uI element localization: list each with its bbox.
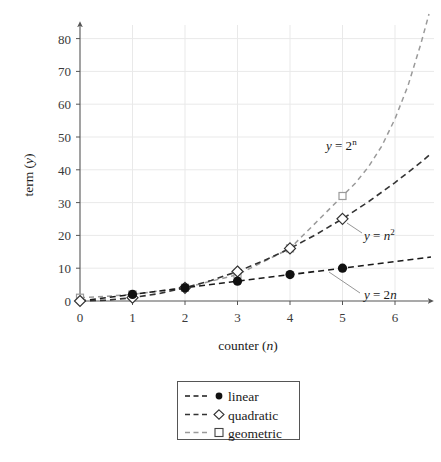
x-tick-label-0: 0 xyxy=(77,310,84,325)
legend-label-quadratic: quadratic xyxy=(228,408,278,423)
y-axis-title-main: term xyxy=(21,171,36,196)
marker-quadratic-n5 xyxy=(337,213,348,224)
annotation-geometric: y = 2n xyxy=(324,137,357,153)
x-axis-title: counter (n) xyxy=(218,338,278,353)
x-tick-labels: 0 1 2 3 4 5 6 xyxy=(77,310,399,325)
legend-label-linear: linear xyxy=(228,389,259,404)
y-tick-label-50: 50 xyxy=(58,130,71,145)
y-tick-label-10: 10 xyxy=(58,261,71,276)
legend-marker-filled-circle-icon xyxy=(216,393,223,400)
y-tick-label-70: 70 xyxy=(58,64,71,79)
y-tick-label-80: 80 xyxy=(58,32,71,47)
y-tick-label-0: 0 xyxy=(65,294,72,309)
y-tick-label-60: 60 xyxy=(58,97,71,112)
y-tick-labels: 0 10 20 30 40 50 60 70 80 xyxy=(58,32,71,309)
x-tick-label-3: 3 xyxy=(234,310,241,325)
annotation-quadratic: y = n2 xyxy=(362,227,395,243)
y-axis-title-var: y xyxy=(21,158,36,166)
marker-linear-n2 xyxy=(180,283,189,292)
y-tick-label-30: 30 xyxy=(58,196,71,211)
annotation-leaders xyxy=(329,223,362,293)
y-tick-marks xyxy=(76,39,80,301)
x-tick-label-5: 5 xyxy=(339,310,346,325)
marker-linear-n4 xyxy=(285,270,294,279)
y-axis-title: term (y) xyxy=(21,153,36,196)
y-tick-label-40: 40 xyxy=(58,163,71,178)
marker-linear-n3 xyxy=(233,277,242,286)
leader-linear xyxy=(329,272,360,293)
x-tick-marks xyxy=(80,301,395,305)
marker-linear-n5 xyxy=(338,264,347,273)
annotation-linear: y = 2n xyxy=(362,287,397,302)
marker-geometric-n5 xyxy=(339,193,346,200)
x-tick-label-2: 2 xyxy=(182,310,189,325)
marker-linear-n1 xyxy=(128,290,137,299)
x-tick-label-6: 6 xyxy=(392,310,399,325)
grid-lines xyxy=(80,25,434,301)
chart-figure: 0 10 20 30 40 50 60 70 80 0 1 2 3 4 xyxy=(0,0,441,462)
x-tick-label-1: 1 xyxy=(129,310,136,325)
markers-quadratic xyxy=(75,213,349,306)
leader-quadratic xyxy=(347,223,362,233)
y-tick-label-20: 20 xyxy=(58,228,71,243)
legend-label-geometric: geometric xyxy=(228,426,282,441)
x-tick-label-4: 4 xyxy=(287,310,294,325)
legend: linear quadratic geometric xyxy=(178,382,300,441)
chart-svg: 0 10 20 30 40 50 60 70 80 0 1 2 3 4 xyxy=(0,0,441,462)
legend-marker-open-square-icon xyxy=(215,429,223,437)
x-axis-title-main: counter xyxy=(218,338,259,353)
